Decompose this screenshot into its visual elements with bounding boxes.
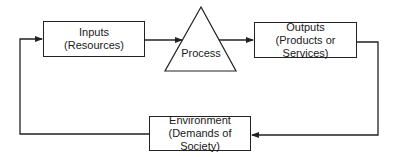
inputs-box: Inputs (Resources) [43, 21, 145, 57]
outputs-title: Outputs [286, 21, 325, 34]
environment-subtitle: (Demands of Society) [150, 127, 250, 153]
process-triangle [165, 7, 236, 71]
outputs-box: Outputs (Products or Services) [254, 22, 357, 58]
inputs-subtitle: (Resources) [64, 39, 124, 52]
environment-title: Environment [169, 114, 231, 127]
inputs-title: Inputs [79, 26, 109, 39]
outputs-subtitle: (Products or Services) [255, 34, 356, 60]
environment-box: Environment (Demands of Society) [149, 116, 251, 151]
process-label: Process [176, 47, 226, 59]
